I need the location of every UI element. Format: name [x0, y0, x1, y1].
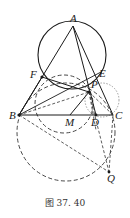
label-B: B: [9, 109, 16, 121]
label-P: P: [90, 78, 98, 90]
label-E: E: [98, 67, 106, 79]
label-D: D: [90, 116, 99, 128]
geometry-figure: A F E P B M D C Q: [0, 0, 130, 218]
label-C: C: [115, 109, 123, 121]
segment-PM: [70, 92, 89, 115]
dashed-PQ: [89, 92, 109, 172]
dashed-CQ: [109, 115, 113, 172]
label-A: A: [69, 12, 77, 24]
label-Q: Q: [107, 172, 115, 184]
label-F: F: [29, 68, 37, 80]
figure-caption: 图 37. 40: [0, 196, 130, 209]
point-F: [40, 75, 43, 78]
label-M: M: [64, 116, 75, 128]
segment-FP: [42, 77, 89, 92]
point-P: [87, 90, 90, 93]
dashed-BP: [19, 92, 89, 115]
point-B: [17, 113, 20, 116]
